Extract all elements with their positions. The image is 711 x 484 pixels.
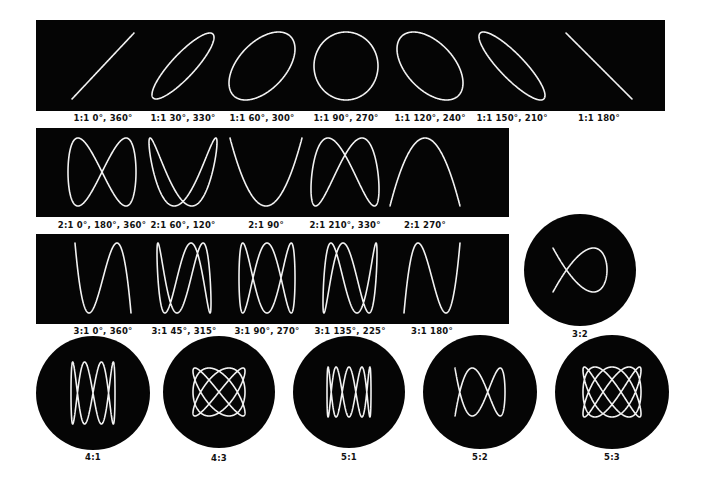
- figure-label: 2:1 60°, 120°: [150, 220, 215, 230]
- trace-curve: [149, 138, 217, 206]
- lissajous-figure: [66, 136, 138, 208]
- lissajous-figure: [237, 241, 297, 315]
- figure-label: 2:1 90°: [248, 220, 284, 230]
- lissajous-figure: [395, 30, 465, 102]
- figure-label: 1:1 180°: [578, 113, 620, 123]
- trace-curve: [71, 362, 115, 424]
- trace-curve: [72, 33, 134, 99]
- disc-label: 3:2: [572, 329, 588, 339]
- trace-curve: [311, 138, 379, 206]
- lissajous-figure: [155, 241, 213, 315]
- figure-label: 3:1 135°, 225°: [314, 326, 385, 336]
- trace-curve: [239, 243, 295, 313]
- lissajous-figure: [453, 366, 507, 418]
- trace-curve: [157, 243, 211, 313]
- trace-curve: [566, 33, 632, 99]
- lissajous-figure: [551, 246, 609, 294]
- disc-label: 5:1: [341, 452, 357, 462]
- trace-curve: [404, 243, 460, 313]
- lissajous-figure: [477, 30, 547, 102]
- figure-label: 2:1 0°, 180°, 360°: [58, 220, 146, 230]
- disc-label: 5:3: [604, 452, 620, 462]
- lissajous-figure: [70, 31, 136, 101]
- figure-label: 1:1 90°, 270°: [313, 113, 378, 123]
- figure-label: 1:1 0°, 360°: [74, 113, 133, 123]
- lissajous-figure: [227, 30, 297, 102]
- disc-label: 4:1: [85, 452, 101, 462]
- trace-curve: [390, 138, 460, 206]
- lissajous-figure: [564, 31, 634, 101]
- lissajous-figure: [73, 241, 133, 315]
- figure-label: 1:1 60°, 300°: [229, 113, 294, 123]
- trace-curve: [455, 368, 505, 416]
- lissajous-figure: [312, 30, 380, 102]
- lissajous-figure: [388, 136, 462, 208]
- trace-curve: [68, 138, 136, 206]
- figure-label: 2:1 210°, 330°: [309, 220, 380, 230]
- disc-label: 5:2: [472, 452, 488, 462]
- figure-label: 1:1 30°, 330°: [150, 113, 215, 123]
- lissajous-figure: [325, 365, 373, 419]
- lissajous-figure: [581, 365, 643, 419]
- disc-label: 4:3: [211, 453, 227, 463]
- trace-curve: [553, 248, 607, 292]
- trace-curve: [323, 243, 377, 313]
- lissajous-figure: [309, 136, 381, 208]
- figure-label: 1:1 120°, 240°: [394, 113, 465, 123]
- figure-label: 3:1 45°, 315°: [151, 326, 216, 336]
- figure-label: 1:1 150°, 210°: [476, 113, 547, 123]
- lissajous-figure: [321, 241, 379, 315]
- figure-label: 3:1 180°: [411, 326, 453, 336]
- lissajous-figure: [191, 366, 247, 418]
- figure-label: 3:1 0°, 360°: [74, 326, 133, 336]
- figure-label: 2:1 270°: [404, 220, 446, 230]
- lissajous-figure: [150, 31, 216, 101]
- lissajous-figure: [147, 136, 219, 208]
- trace-curve: [583, 367, 641, 417]
- trace-curve: [479, 32, 545, 100]
- trace-curve: [327, 367, 371, 417]
- trace-curve: [152, 33, 214, 99]
- trace-curve: [193, 368, 245, 416]
- lissajous-figure: [228, 136, 304, 208]
- trace-curve: [397, 32, 463, 100]
- lissajous-figure: [69, 360, 117, 426]
- trace-curve: [314, 32, 378, 100]
- lissajous-figure: [402, 241, 462, 315]
- trace-curve: [229, 32, 295, 100]
- trace-curve: [230, 138, 302, 206]
- figure-label: 3:1 90°, 270°: [234, 326, 299, 336]
- trace-curve: [75, 243, 131, 313]
